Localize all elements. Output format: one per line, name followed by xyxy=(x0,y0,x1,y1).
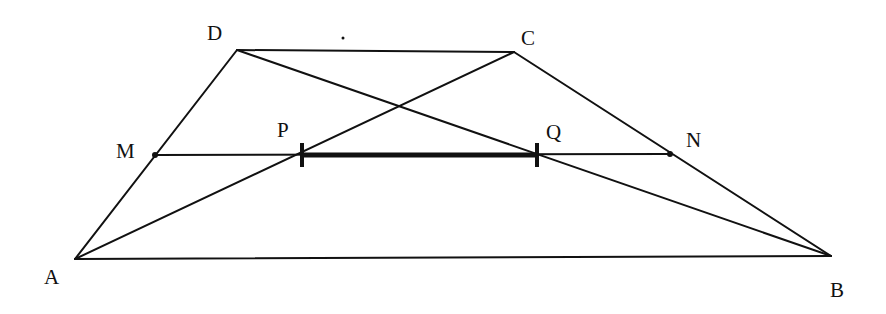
side-AB xyxy=(75,256,831,259)
stray-mark xyxy=(342,37,345,40)
diagram-canvas: ABCDMNPQ xyxy=(0,0,886,314)
label-a: A xyxy=(44,265,60,289)
labels-group: ABCDMNPQ xyxy=(44,21,844,302)
geometry-figure: ABCDMNPQ xyxy=(0,0,886,314)
label-m: M xyxy=(116,139,135,163)
label-c: C xyxy=(521,26,535,50)
label-n: N xyxy=(686,128,701,152)
label-q: Q xyxy=(546,120,561,144)
label-b: B xyxy=(830,278,844,302)
label-p: P xyxy=(277,118,289,142)
points-group xyxy=(152,37,673,159)
label-d: D xyxy=(207,21,222,45)
point-m-dot xyxy=(152,152,158,158)
point-n-dot xyxy=(667,151,673,157)
highlight-group xyxy=(302,143,537,167)
side-CD xyxy=(237,50,514,52)
